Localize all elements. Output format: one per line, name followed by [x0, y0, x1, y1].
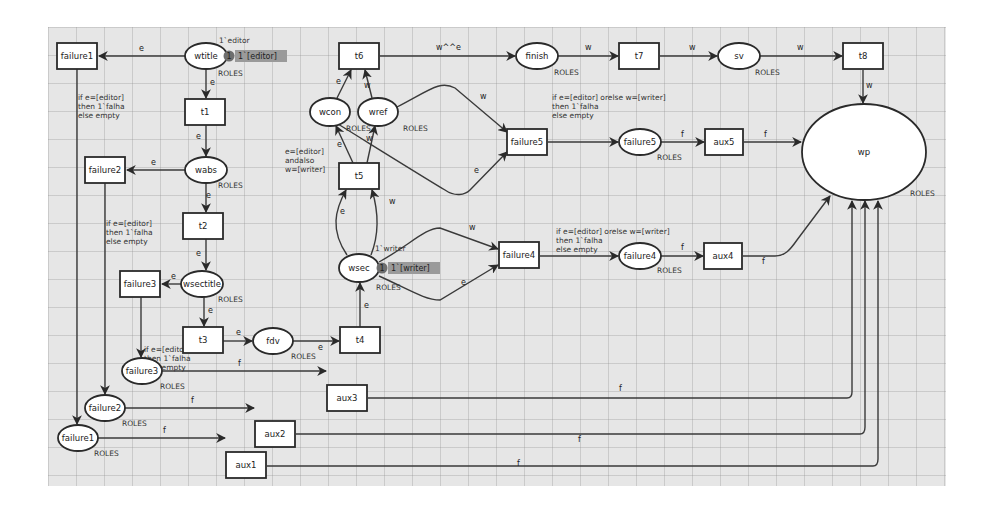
arc-expression: if e=[editor]then 1`falhaelse empty: [106, 219, 153, 246]
arc[interactable]: e: [99, 44, 185, 56]
place-fdv[interactable]: fdvROLES: [253, 328, 316, 361]
place-finish[interactable]: finishROLES: [516, 43, 579, 77]
place-failure4[interactable]: failure4ROLES: [619, 243, 682, 275]
arc[interactable]: e: [162, 272, 181, 284]
arc[interactable]: w: [863, 70, 873, 103]
arc-inscription: e: [318, 343, 323, 352]
arc-inscription: w: [866, 81, 873, 90]
place-wsectitle[interactable]: wsectitleROLES: [181, 271, 243, 304]
transition-aux5[interactable]: aux5: [705, 129, 743, 155]
transition-aux3[interactable]: aux3: [327, 385, 367, 411]
place-failure2p[interactable]: failure2ROLES: [85, 395, 147, 428]
arc[interactable]: e: [206, 183, 211, 212]
expression-line: if e=[editor]: [106, 219, 152, 228]
colorset-label: ROLES: [376, 283, 401, 292]
colorset-label: ROLES: [122, 419, 147, 428]
arc-inscription: w^^e: [436, 43, 461, 52]
expression-line: andalso: [285, 156, 315, 165]
arc[interactable]: f: [661, 130, 704, 142]
arc-path[interactable]: [743, 196, 830, 256]
place-label: failure3: [126, 366, 158, 376]
arc[interactable]: w^^e: [380, 43, 515, 56]
arc[interactable]: w: [364, 70, 372, 98]
arc[interactable]: f: [98, 426, 225, 438]
place-wsec[interactable]: wsecROLES1`writer11`[writer]: [339, 244, 440, 292]
arc[interactable]: f: [661, 243, 703, 256]
arc[interactable]: w: [558, 43, 618, 56]
transition-t2[interactable]: t2: [183, 213, 223, 239]
arc-inscription: f: [517, 459, 520, 468]
place-failure1p[interactable]: failure1ROLES: [58, 425, 119, 458]
transition-label: t6: [355, 51, 364, 61]
arc[interactable]: e: [360, 283, 369, 327]
transition-t5[interactable]: t5: [339, 163, 379, 189]
arc-inscription: w: [797, 43, 804, 52]
transition-label: aux1: [235, 460, 256, 470]
arc[interactable]: e: [196, 125, 206, 156]
transition-t4[interactable]: t4: [340, 327, 380, 353]
transition-failure2t[interactable]: failure2: [85, 157, 125, 183]
place-label: failure5: [624, 137, 656, 147]
transition-t3[interactable]: t3: [183, 327, 223, 353]
transition-failure5t[interactable]: failure5: [507, 129, 547, 155]
place-sv[interactable]: svROLES: [718, 43, 780, 77]
expression-line: then 1`falha: [106, 228, 153, 237]
transition-t8[interactable]: t8: [843, 43, 883, 69]
arc[interactable]: e: [223, 328, 252, 341]
place-wabs[interactable]: wabsROLES: [185, 157, 243, 190]
arc[interactable]: e: [204, 297, 213, 326]
arc[interactable]: e: [127, 158, 185, 170]
token-value: 1`[writer]: [391, 263, 430, 273]
transition-t7[interactable]: t7: [619, 43, 659, 69]
transition-label: t1: [201, 107, 210, 117]
arc[interactable]: w: [379, 223, 498, 262]
arc[interactable]: f: [125, 396, 254, 408]
token-value: 1`[editor]: [238, 51, 277, 61]
arc-inscription: f: [681, 130, 684, 139]
transition-aux4[interactable]: aux4: [704, 243, 742, 269]
transition-label: t3: [199, 335, 208, 345]
arc[interactable]: f: [744, 130, 801, 142]
transition-label: t2: [199, 221, 208, 231]
arc[interactable]: e: [293, 341, 339, 352]
expression-line: else empty: [106, 237, 148, 246]
transition-aux1[interactable]: aux1: [226, 452, 266, 478]
token-marking[interactable]: 11`[editor]: [224, 50, 288, 62]
expression-line: if e=[editor]: [78, 93, 124, 102]
expression-line: if e=[editor] orelse w=[writer]: [556, 227, 670, 236]
expression-line: e=[editor]: [285, 147, 324, 156]
arc[interactable]: w: [760, 43, 842, 56]
transition-t6[interactable]: t6: [339, 43, 379, 69]
transition-failure3t[interactable]: failure3: [120, 271, 160, 297]
arc[interactable]: f: [743, 196, 830, 266]
token-marking[interactable]: 11`[writer]: [377, 262, 441, 274]
expression-line: then 1`falha: [556, 236, 603, 245]
place-label: wabs: [195, 165, 218, 175]
arc-inscription: e: [236, 328, 241, 337]
transition-aux2[interactable]: aux2: [255, 421, 295, 447]
initial-marking: 1`editor: [219, 36, 251, 45]
arc-inscription: e: [196, 132, 201, 141]
place-label: wsec: [348, 263, 370, 273]
arc[interactable]: w: [660, 43, 717, 56]
arc[interactable]: e: [336, 190, 347, 255]
transition-t1[interactable]: t1: [185, 99, 225, 125]
place-wtitle[interactable]: wtitleROLES1`editor11`[editor]: [185, 36, 287, 78]
arc-inscription: w: [480, 92, 487, 101]
transition-failure4t[interactable]: failure4: [499, 242, 539, 268]
transition-label: failure5: [511, 137, 543, 147]
colorset-label: ROLES: [218, 181, 243, 190]
arc-inscription: f: [191, 396, 194, 405]
arc-inscription: e: [461, 278, 466, 287]
place-wp[interactable]: wpROLES: [802, 104, 935, 200]
place-failure5[interactable]: failure5ROLES: [619, 129, 682, 162]
place-label: sv: [734, 51, 743, 61]
arc[interactable]: e: [336, 70, 351, 98]
arc-inscription: e: [210, 78, 215, 87]
arc[interactable]: e: [196, 239, 206, 270]
arc-path[interactable]: [336, 190, 347, 255]
arc[interactable]: e: [206, 69, 215, 98]
transition-failure1t[interactable]: failure1: [57, 43, 97, 69]
place-label: wref: [369, 107, 388, 117]
colorset-label: ROLES: [94, 449, 119, 458]
